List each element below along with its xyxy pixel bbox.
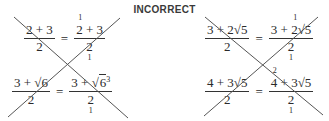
strike-line-right-b <box>204 17 318 116</box>
strike-line-left-b <box>8 18 120 117</box>
strike-lines <box>0 0 329 121</box>
strike-line-left-a <box>14 17 128 118</box>
